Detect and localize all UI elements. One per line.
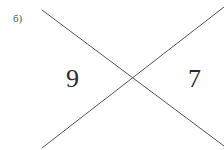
geometry-figure: б) 9 7 bbox=[0, 0, 224, 150]
right-angle-measure: 7 bbox=[188, 66, 201, 92]
problem-label: б) bbox=[13, 13, 22, 24]
left-angle-measure: 9 bbox=[66, 66, 79, 92]
